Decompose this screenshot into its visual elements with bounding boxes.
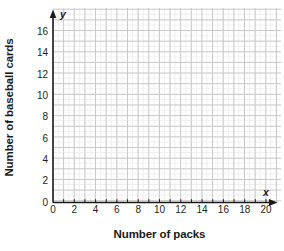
y-tick-label: 6 (28, 133, 48, 145)
y-tick-label: 2 (28, 175, 48, 187)
x-axis-title: Number of packs (52, 228, 267, 240)
y-axis-variable-letter: y (60, 8, 66, 20)
y-tick-label: 10 (28, 90, 48, 102)
y-tick-label: 8 (28, 111, 48, 123)
y-axis-title: Number of baseball cards (0, 0, 18, 215)
y-tick-label: 0 (28, 197, 48, 209)
y-tick-label: 4 (28, 154, 48, 166)
coordinate-grid-figure: Number of baseball cards (0, 0, 284, 251)
x-axis-variable-letter: x (263, 186, 269, 198)
y-tick-label: 12 (28, 69, 48, 81)
x-tick-label: 20 (254, 204, 278, 215)
y-tick-label: 16 (28, 26, 48, 38)
grid-lines (53, 8, 281, 203)
plot-area (53, 8, 281, 203)
y-tick-label: 14 (28, 47, 48, 59)
